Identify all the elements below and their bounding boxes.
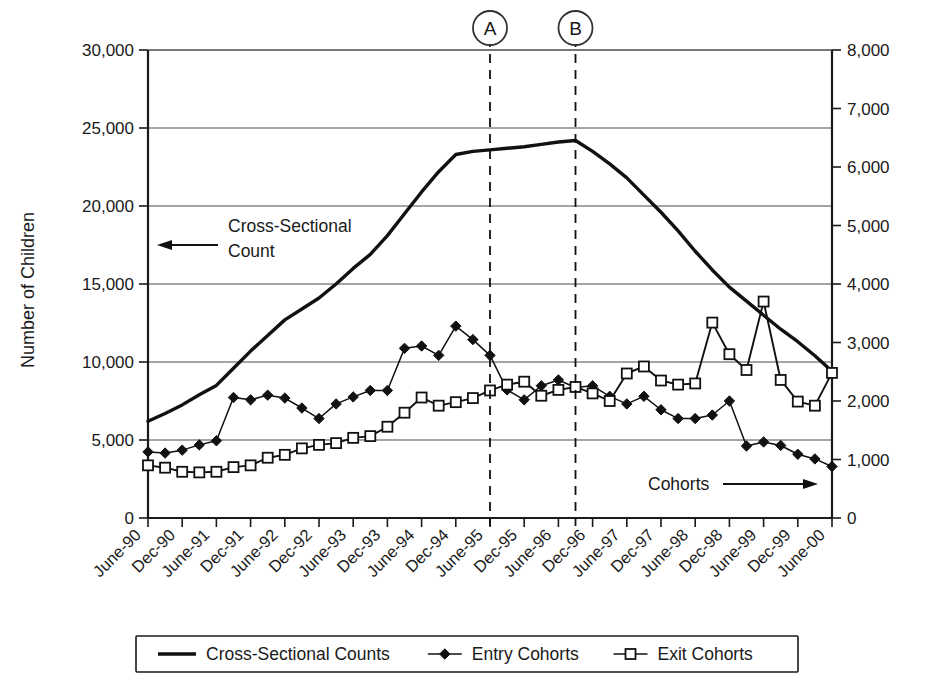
data-point-marker xyxy=(827,368,837,378)
right-axis-tick-label: 4,000 xyxy=(847,275,890,294)
data-point-marker xyxy=(724,349,734,359)
left-axis-tick-label: 20,000 xyxy=(82,197,134,216)
left-axis-tick-label: 15,000 xyxy=(82,275,134,294)
data-point-marker xyxy=(536,391,546,401)
data-point-marker xyxy=(314,440,324,450)
data-point-marker xyxy=(382,422,392,432)
chart-background xyxy=(0,0,925,691)
annotation-cross-sectional-line2: Count xyxy=(228,241,275,261)
vertical-marker-label-a: A xyxy=(484,18,497,39)
right-axis-tick-label: 1,000 xyxy=(847,451,890,470)
data-point-marker xyxy=(519,377,529,387)
left-axis-tick-label: 5,000 xyxy=(91,431,134,450)
data-point-marker xyxy=(810,401,820,411)
y-axis-title: Number of Children xyxy=(18,212,38,368)
data-point-marker xyxy=(211,467,221,477)
data-point-marker xyxy=(417,392,427,402)
data-point-marker xyxy=(246,460,256,470)
data-point-marker xyxy=(605,396,615,406)
left-axis-tick-label: 0 xyxy=(125,509,134,528)
legend-swatch-marker xyxy=(626,649,636,659)
data-point-marker xyxy=(622,369,632,379)
data-point-marker xyxy=(263,453,273,463)
chart-legend: Cross-Sectional CountsEntry CohortsExit … xyxy=(136,636,798,672)
data-point-marker xyxy=(451,397,461,407)
annotation-cross-sectional-line1: Cross-Sectional xyxy=(228,216,352,236)
right-axis-tick-label: 6,000 xyxy=(847,158,890,177)
data-point-marker xyxy=(742,365,752,375)
annotation-cohorts-label: Cohorts xyxy=(648,474,710,494)
data-point-marker xyxy=(194,467,204,477)
vertical-marker-label-b: B xyxy=(569,18,582,39)
data-point-marker xyxy=(348,433,358,443)
data-point-marker xyxy=(297,443,307,453)
data-point-marker xyxy=(280,450,290,460)
chart-canvas: 05,00010,00015,00020,00025,00030,000 01,… xyxy=(0,0,925,691)
chart-container: 05,00010,00015,00020,00025,00030,000 01,… xyxy=(0,0,925,691)
data-point-marker xyxy=(468,393,478,403)
data-point-marker xyxy=(160,463,170,473)
data-point-marker xyxy=(400,408,410,418)
data-point-marker xyxy=(759,297,769,307)
data-point-marker xyxy=(177,467,187,477)
right-axis-tick-label: 7,000 xyxy=(847,100,890,119)
data-point-marker xyxy=(553,385,563,395)
data-point-marker xyxy=(656,376,666,386)
legend-item-label: Entry Cohorts xyxy=(472,644,579,664)
data-point-marker xyxy=(639,361,649,371)
left-axis-tick-label: 25,000 xyxy=(82,119,134,138)
data-point-marker xyxy=(502,380,512,390)
data-point-marker xyxy=(143,460,153,470)
right-axis-tick-label: 0 xyxy=(847,509,856,528)
left-axis-tick-label: 30,000 xyxy=(82,41,134,60)
y-axis-title-text: Number of Children xyxy=(18,212,38,368)
data-point-marker xyxy=(690,378,700,388)
right-axis-tick-label: 8,000 xyxy=(847,41,890,60)
data-point-marker xyxy=(588,388,598,398)
right-axis-tick-label: 2,000 xyxy=(847,392,890,411)
data-point-marker xyxy=(673,380,683,390)
data-point-marker xyxy=(434,401,444,411)
data-point-marker xyxy=(331,438,341,448)
data-point-marker xyxy=(776,375,786,385)
legend-item-label: Exit Cohorts xyxy=(658,644,754,664)
data-point-marker xyxy=(365,431,375,441)
right-axis-tick-label: 3,000 xyxy=(847,334,890,353)
data-point-marker xyxy=(707,318,717,328)
data-point-marker xyxy=(793,397,803,407)
left-axis-tick-label: 10,000 xyxy=(82,353,134,372)
data-point-marker xyxy=(229,462,239,472)
legend-item-label: Cross-Sectional Counts xyxy=(206,644,390,664)
right-axis-tick-label: 5,000 xyxy=(847,217,890,236)
